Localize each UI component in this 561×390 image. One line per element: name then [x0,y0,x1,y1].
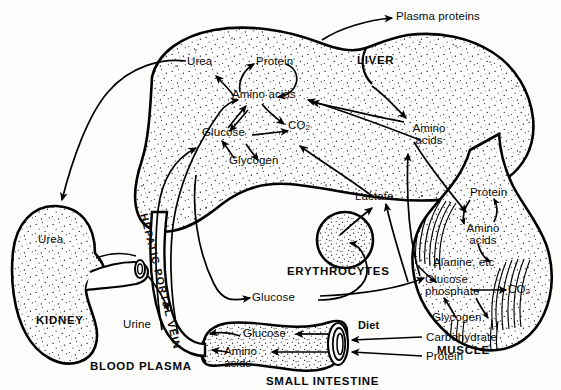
label-diet-carbohydrate: Carbohydrate [426,331,497,343]
muscle-label-amino-acids: Amino acids [461,222,505,247]
liver-label-co2: CO2 [288,119,310,133]
organ-label-erythrocytes: ERYTHROCYTES [287,265,390,277]
muscle-label-glucose-phosphate: Glucose phosphate [425,273,487,298]
intestine-amino-line2: acids [224,357,251,369]
muscle-label-co2: CO2 [508,283,530,297]
liver-label-protein: Protein [256,55,293,67]
organ-label-liver: LIVER [357,54,394,66]
region-label-blood-plasma: BLOOD PLASMA [90,360,192,372]
liver-co2-text: CO [288,119,305,131]
liver-co2-subscript: 2 [305,123,310,132]
liver-label-amino-acids: Amino acids [232,88,296,100]
intestine-label-amino-acids: Amino acids [224,345,270,370]
plasma-label-amino-acids: Amino acids [407,122,451,147]
plasma-amino-line2: acids [415,134,442,146]
kidney-label-urea: Urea [38,233,63,245]
liver-label-urea: Urea [187,55,212,67]
plasma-amino-line1: Amino [412,122,445,134]
muscle-amino-line2: acids [469,234,496,246]
label-diet-heading: Diet [358,320,379,332]
plasma-label-glucose: Glucose [252,291,295,303]
label-plasma-proteins: Plasma proteins [396,10,480,22]
organ-label-muscle: MUSCLE [437,344,490,356]
liver-label-glycogen: Glycogen [229,154,278,166]
muscle-label-glycogen: Glycogen [432,311,481,323]
muscle-label-alanine: Alanine, etc [433,256,494,268]
arrow-liver-to-plasma-proteins [322,18,392,40]
muscle-amino-line1: Amino [466,222,499,234]
label-lactate: Lactate [355,190,393,202]
label-urine: Urine [123,318,151,330]
muscle-glucose-line1: Glucose [425,273,468,285]
intestine-amino-line1: Amino [224,345,257,357]
organ-label-small-intestine: SMALL INTESTINE [266,375,379,387]
metabolism-diagram: LIVER Urea Protein Amino acids CO2 Gluco… [0,0,561,390]
arrow-diet-carbohydrate [352,337,422,340]
liver-label-glucose: Glucose [202,126,245,138]
muscle-co2-subscript: 2 [525,287,530,296]
arrow-diet-protein [352,352,422,356]
kidney-shape [12,206,148,364]
intestine-label-glucose: Glucose [243,327,286,339]
muscle-co2-text: CO [508,283,525,295]
muscle-glucose-line2: phosphate [425,285,480,297]
organ-label-kidney: KIDNEY [36,314,84,326]
muscle-label-protein: Protein [470,186,507,198]
